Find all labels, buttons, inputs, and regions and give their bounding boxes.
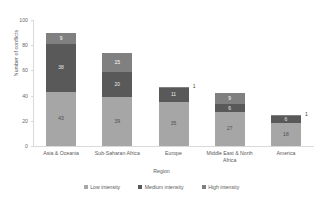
bar-stack[interactable]: 1618 xyxy=(271,115,301,146)
bar-stack[interactable]: 9627 xyxy=(215,93,245,146)
legend-swatch-icon xyxy=(138,185,142,189)
bar-segment-low[interactable]: 43 xyxy=(46,92,76,146)
x-axis-label: Europe xyxy=(145,150,201,157)
x-axis-label: Middle East & North Africa xyxy=(204,150,256,164)
plot-area: 938431520391113596271618 xyxy=(33,20,314,146)
legend-label: Medium intensity xyxy=(145,184,184,190)
bar-value-label: 18 xyxy=(283,132,289,137)
y-tick-label: 20 xyxy=(8,118,28,124)
legend-item[interactable]: High intensity xyxy=(202,184,240,190)
bar-segment-high[interactable]: 9 xyxy=(215,93,245,104)
x-axis-title: Region xyxy=(0,168,323,174)
bar-value-label: 11 xyxy=(171,92,176,97)
bar-value-label: 9 xyxy=(228,96,231,101)
bar-segment-med[interactable]: 38 xyxy=(46,44,76,92)
bar-segment-low[interactable]: 39 xyxy=(102,97,132,146)
legend-item[interactable]: Low intensity xyxy=(84,184,121,190)
legend-item[interactable]: Medium intensity xyxy=(138,184,183,190)
bar-value-label-outside: 1 xyxy=(193,83,196,89)
legend-swatch-icon xyxy=(202,185,206,189)
bar-value-label: 27 xyxy=(227,126,233,131)
bar-segment-low[interactable]: 18 xyxy=(271,123,301,146)
bar-stack[interactable]: 93843 xyxy=(46,33,76,146)
x-axis-label: Asia & Oceania xyxy=(33,150,89,157)
bar-value-label: 38 xyxy=(58,65,64,70)
bar-segment-med[interactable]: 20 xyxy=(102,72,132,97)
y-tick-label: 40 xyxy=(8,93,28,99)
chart-container: Number of conflicts 020406080100 9384315… xyxy=(0,0,323,206)
bar-value-label: 6 xyxy=(228,106,231,111)
bar-stack[interactable]: 11135 xyxy=(159,87,189,146)
bar-value-label-outside: 1 xyxy=(305,111,308,117)
x-axis-label: Sub-Saharan Africa xyxy=(89,150,145,157)
bar-segment-low[interactable]: 35 xyxy=(159,102,189,146)
bar-value-label: 9 xyxy=(60,36,63,41)
y-tick-mark xyxy=(31,146,33,147)
legend-label: High intensity xyxy=(208,184,239,190)
bar-segment-med[interactable]: 6 xyxy=(215,104,245,112)
bar-segment-med[interactable]: 11 xyxy=(159,88,189,102)
y-tick-label: 0 xyxy=(8,143,28,149)
bar-value-label: 39 xyxy=(115,119,121,124)
legend-label: Low intensity xyxy=(90,184,120,190)
bar-value-label: 35 xyxy=(171,121,177,126)
bar-value-label: 15 xyxy=(115,60,121,65)
bar-segment-med[interactable]: 6 xyxy=(271,116,301,124)
bar-stack[interactable]: 152039 xyxy=(102,53,132,146)
chart-legend: Low intensityMedium intensityHigh intens… xyxy=(0,184,323,190)
bar-value-label: 6 xyxy=(285,117,288,122)
y-tick-label: 60 xyxy=(8,67,28,73)
bar-value-label: 20 xyxy=(115,82,121,87)
bar-value-label: 43 xyxy=(58,116,64,121)
bar-segment-low[interactable]: 27 xyxy=(215,112,245,146)
y-tick-label: 100 xyxy=(8,17,28,23)
legend-swatch-icon xyxy=(84,185,88,189)
x-axis-label: America xyxy=(258,150,314,157)
bar-segment-high[interactable]: 9 xyxy=(46,33,76,44)
y-tick-label: 80 xyxy=(8,42,28,48)
x-axis-line xyxy=(33,146,314,147)
bar-segment-high[interactable]: 15 xyxy=(102,53,132,72)
